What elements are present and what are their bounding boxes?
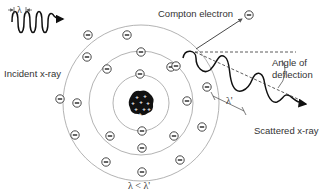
- electron-icon: [203, 83, 211, 91]
- electron-icon: [136, 70, 144, 78]
- proton-icon: +: [139, 99, 143, 105]
- electron-icon: [138, 144, 146, 152]
- electron-icon: [183, 97, 191, 105]
- angle-of-deflection-label-1: Angle of: [272, 57, 307, 68]
- angle-of-deflection-label-2: deflection: [272, 69, 313, 80]
- compton-electron-arrow: [196, 19, 242, 49]
- wavelength-relation-label: λ < λ': [128, 180, 150, 191]
- electron-icon: [137, 48, 145, 56]
- compton-electron-label: Compton electron: [158, 8, 233, 19]
- nucleus: +++++++++: [129, 90, 154, 117]
- proton-icon: +: [142, 106, 146, 112]
- proton-icon: +: [143, 93, 147, 99]
- compton-scattering-diagram: +++++++++: [0, 0, 323, 195]
- electron-icon: [170, 132, 178, 140]
- electron-icon: [172, 62, 180, 70]
- proton-icon: +: [147, 106, 151, 112]
- electron-icon: [138, 168, 146, 176]
- incident-x-ray-label: Incident x-ray: [4, 68, 61, 79]
- electron-icon: [71, 131, 79, 139]
- lambda-prime-label: λ': [226, 95, 233, 106]
- electron-icon: [83, 53, 91, 61]
- lambda-label: λ: [17, 4, 22, 15]
- electron-icon: [84, 31, 92, 39]
- electrons: [56, 11, 253, 176]
- electron-icon: [103, 65, 111, 73]
- electron-icon: [56, 95, 64, 103]
- electron-icon: [73, 99, 81, 107]
- electron-icon: [245, 11, 253, 19]
- electron-icon: [123, 31, 131, 39]
- electron-icon: [176, 156, 184, 164]
- electron-icon: [106, 132, 114, 140]
- proton-icon: +: [138, 111, 142, 117]
- electron-icon: [198, 123, 206, 131]
- electron-icon: [138, 127, 146, 135]
- scattered-x-ray-label: Scattered x-ray: [254, 125, 318, 136]
- electron-icon: [102, 158, 110, 166]
